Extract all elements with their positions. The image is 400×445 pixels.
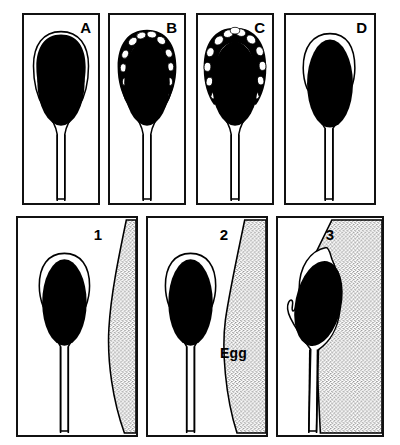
egg-cytoplasm-region <box>109 220 136 433</box>
sperm-nucleus <box>307 39 353 127</box>
panel-a-label: A <box>80 20 91 35</box>
panel-1: 1 <box>16 216 138 437</box>
sperm-nucleus <box>124 39 170 125</box>
sperm-nucleus <box>168 259 212 345</box>
sperm-nucleus <box>37 38 84 126</box>
panel-2: 2 Egg <box>146 216 268 437</box>
panel-1-label: 1 <box>94 227 102 242</box>
panel-3: 3 <box>276 216 384 437</box>
sperm-early-vesiculation-diagram <box>110 15 184 203</box>
sperm-contacting-egg-diagram <box>148 218 266 435</box>
panel-c-label: C <box>254 20 265 35</box>
panel-b-label: B <box>166 20 177 35</box>
sperm-approaching-egg-diagram <box>18 218 136 435</box>
figure-root: A <box>0 0 400 445</box>
panel-3-label: 3 <box>326 227 334 242</box>
sperm-intact-acrosome-diagram <box>24 15 98 203</box>
panel-c: C <box>196 13 274 205</box>
sperm-acrosome-shed-diagram <box>286 15 374 203</box>
panel-d-label: D <box>356 20 367 35</box>
egg-cytoplasm-region <box>224 220 266 433</box>
sperm-nucleus <box>212 41 258 125</box>
panel-2-label: 2 <box>220 227 228 242</box>
panel-d: D <box>284 13 376 205</box>
sperm-nucleus <box>42 259 86 345</box>
egg-annotation-label: Egg <box>220 346 247 360</box>
sperm-penetrating-egg-diagram <box>278 218 382 435</box>
sperm-advanced-vesiculation-diagram <box>198 15 272 203</box>
panel-a: A <box>22 13 100 205</box>
panel-b: B <box>108 13 186 205</box>
